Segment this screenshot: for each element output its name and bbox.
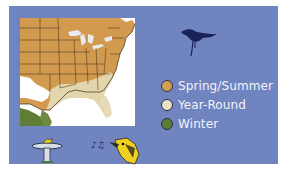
us-map-icon (20, 18, 135, 126)
bird-silhouette-icon (179, 24, 219, 60)
legend-label: Spring/Summer (178, 79, 273, 93)
svg-text:♪♫: ♪♫ (91, 140, 105, 150)
spring-summer-swatch-icon (161, 80, 173, 92)
range-map-panel: Spring/Summer Year-Round Winter ♪♫ (9, 6, 278, 164)
legend-label: Year-Round (178, 98, 246, 112)
legend-item-spring-summer: Spring/Summer (161, 76, 273, 95)
year-round-swatch-icon (161, 99, 173, 111)
legend-label: Winter (178, 117, 218, 131)
range-legend: Spring/Summer Year-Round Winter (161, 76, 273, 133)
singing-bird-icon: ♪♫ (91, 134, 143, 170)
birdbath-icon (29, 136, 65, 166)
legend-item-year-round: Year-Round (161, 95, 273, 114)
winter-swatch-icon (161, 118, 173, 130)
legend-item-winter: Winter (161, 114, 273, 133)
range-map (20, 18, 135, 126)
